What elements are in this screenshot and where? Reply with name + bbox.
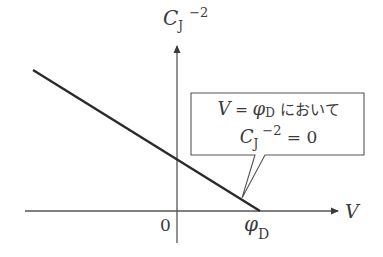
callout-text: V = φD において CJ−2 = 0	[193, 96, 364, 152]
callout-eq: =	[230, 101, 252, 119]
y-axis-label: CJ−2	[163, 8, 208, 28]
cj-v-diagram: CJ−2 V 0 φD V = φD において CJ−2 = 0	[0, 0, 383, 257]
callout-phi-sub: D	[265, 106, 275, 120]
callout-c-sup: −2	[262, 123, 281, 138]
callout-line-1: V = φD において	[193, 96, 364, 124]
origin-label: 0	[160, 217, 171, 234]
callout-line-2: CJ−2 = 0	[193, 124, 364, 152]
x-axis-label: V	[345, 202, 359, 221]
callout-c-sub: J	[253, 137, 258, 151]
x-intercept-label: φD	[244, 214, 269, 234]
x-intercept-phi: φ	[244, 212, 258, 236]
callout-japanese: において	[275, 101, 340, 119]
callout-phi: φ	[253, 98, 266, 119]
callout-eq-zero: = 0	[281, 127, 317, 147]
x-intercept-sub: D	[258, 226, 269, 242]
y-axis-label-sub: J	[178, 19, 183, 33]
y-axis-label-main: C	[163, 6, 178, 30]
callout-v: V	[217, 98, 230, 119]
y-axis-label-sup: −2	[189, 5, 208, 20]
callout-c: C	[240, 126, 254, 147]
